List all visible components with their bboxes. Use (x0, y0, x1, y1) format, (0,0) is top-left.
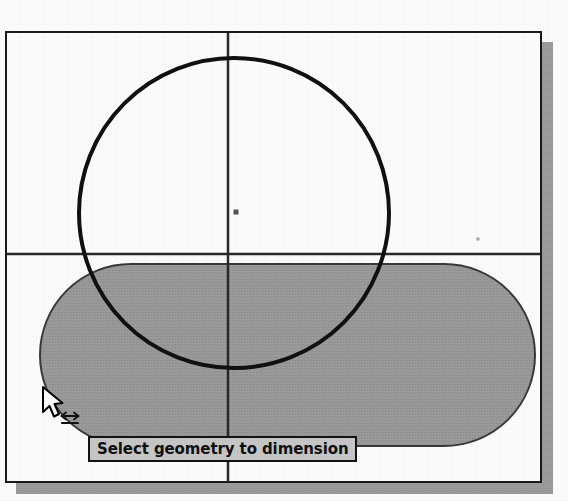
screenshot-root: Select geometry to dimension (0, 0, 568, 501)
circle-center-point[interactable] (234, 210, 239, 215)
tooltip-label: Select geometry to dimension (97, 440, 348, 458)
reference-point[interactable] (476, 237, 480, 241)
sketch-canvas[interactable] (7, 33, 540, 481)
tooltip: Select geometry to dimension (88, 436, 357, 462)
rounded-slot-shape[interactable] (40, 264, 535, 446)
drawing-window[interactable]: Select geometry to dimension (5, 31, 542, 483)
